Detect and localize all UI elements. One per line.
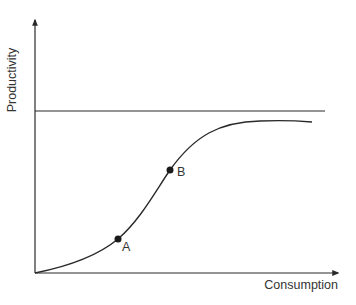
productivity-curve [35, 121, 312, 273]
y-axis-label: Productivity [5, 48, 19, 113]
chart-canvas [0, 0, 356, 305]
y-axis-label-container: Productivity [2, 30, 22, 130]
point-b-marker [167, 167, 174, 174]
point-a-marker [115, 236, 122, 243]
x-axis-label: Consumption [264, 278, 338, 292]
point-a-label: A [122, 240, 130, 254]
point-b-label: B [177, 165, 185, 179]
